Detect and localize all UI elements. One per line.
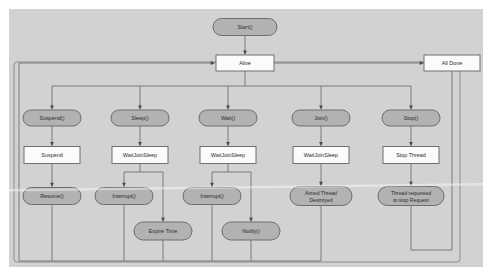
node-stop-call[interactable]: Stop() — [382, 110, 440, 126]
node-waitjoinsleep-3[interactable]: WaitJoinSleep — [293, 147, 349, 164]
node-interrupt-2[interactable]: Interrupt() — [183, 188, 241, 205]
node-expire-time[interactable]: Expire Time — [134, 222, 192, 240]
node-notify-label: Notify() — [242, 228, 260, 234]
node-waitjoinsleep-1[interactable]: WaitJoinSleep — [112, 147, 168, 164]
node-join-call-label: Join() — [314, 115, 328, 121]
node-notify[interactable]: Notify() — [222, 222, 280, 240]
node-interrupt-2-label: Interrupt() — [200, 193, 224, 199]
node-stop-call-label: Stop() — [404, 115, 419, 121]
node-aimed-thread-destroyed[interactable]: Aimed Thread Destroyed — [290, 187, 352, 206]
node-thread-stop-request[interactable]: Thread requested to stop Request — [378, 187, 444, 206]
node-suspend-state[interactable]: Suspend — [24, 147, 80, 164]
node-interrupt-1-label: Interrupt() — [112, 193, 136, 199]
node-sleep-call-label: Sleep() — [131, 115, 149, 121]
flowchart-svg: Start() Alive All Done Suspend() Sleep() — [0, 0, 492, 277]
node-start-label: Start() — [238, 24, 253, 30]
node-aimed-thread-destroyed-line2: Destroyed — [309, 197, 332, 203]
diagram-canvas: Start() Alive All Done Suspend() Sleep() — [0, 0, 492, 277]
node-waitjoinsleep-3-label: WaitJoinSleep — [304, 152, 338, 158]
node-suspend-state-label: Suspend — [41, 152, 62, 158]
node-aimed-thread-destroyed-line1: Aimed Thread — [305, 190, 337, 196]
node-stop-thread[interactable]: Stop Thread — [383, 147, 439, 164]
node-waitjoinsleep-2-label: WaitJoinSleep — [211, 152, 245, 158]
node-wait-call-label: Wait() — [221, 115, 235, 121]
node-thread-stop-request-line2: to stop Request — [393, 197, 429, 203]
node-join-call[interactable]: Join() — [292, 110, 350, 126]
node-start[interactable]: Start() — [213, 19, 277, 36]
node-alive-label: Alive — [239, 60, 251, 66]
node-stop-thread-label: Stop Thread — [396, 152, 426, 158]
node-all-done-label: All Done — [442, 60, 462, 66]
node-expire-time-label: Expire Time — [149, 228, 177, 234]
node-wait-call[interactable]: Wait() — [199, 110, 257, 126]
node-waitjoinsleep-1-label: WaitJoinSleep — [123, 152, 157, 158]
node-waitjoinsleep-2[interactable]: WaitJoinSleep — [200, 147, 256, 164]
node-alive[interactable]: Alive — [216, 55, 274, 71]
node-resume-call-label: Resume() — [40, 193, 64, 199]
node-all-done[interactable]: All Done — [424, 55, 480, 71]
node-suspend-call-label: Suspend() — [40, 115, 65, 121]
node-thread-stop-request-line1: Thread requested — [391, 190, 431, 196]
node-suspend-call[interactable]: Suspend() — [23, 110, 81, 126]
node-sleep-call[interactable]: Sleep() — [111, 110, 169, 126]
